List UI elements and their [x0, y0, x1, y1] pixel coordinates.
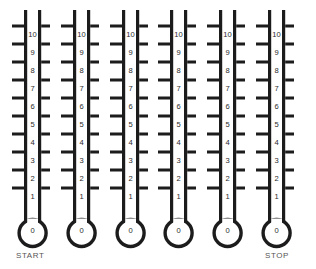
scale-value-6: 6 — [225, 102, 229, 111]
bulb-value: 0 — [30, 226, 34, 235]
tick-right-10 — [236, 25, 245, 28]
scale-value-10: 10 — [272, 30, 280, 39]
tick-right-3 — [236, 151, 245, 154]
scale-value-3: 3 — [225, 156, 229, 165]
tick-left-1 — [61, 187, 73, 190]
tick-left-6 — [158, 97, 170, 100]
scale-value-8: 8 — [176, 66, 180, 75]
tube-wall-right — [38, 10, 41, 223]
tick-right-8 — [285, 61, 294, 64]
scale-value-4: 4 — [176, 138, 180, 147]
scale-value-5: 5 — [176, 120, 180, 129]
tick-right-6 — [139, 97, 148, 100]
tick-right-8 — [41, 61, 50, 64]
scale-value-9: 9 — [176, 48, 180, 57]
tick-right-5 — [236, 115, 245, 118]
tick-left-10 — [110, 25, 122, 28]
scale-value-9: 9 — [79, 48, 83, 57]
tick-left-7 — [256, 79, 268, 82]
tick-left-3 — [110, 151, 122, 154]
scale-value-6: 6 — [176, 102, 180, 111]
scale-value-5: 5 — [30, 120, 34, 129]
tick-right-6 — [285, 97, 294, 100]
scale-value-2: 2 — [225, 174, 229, 183]
tick-left-2 — [61, 169, 73, 172]
bulb-neck — [125, 219, 136, 225]
tick-right-1 — [139, 187, 148, 190]
tick-right-3 — [285, 151, 294, 154]
tick-left-6 — [110, 97, 122, 100]
tick-left-7 — [12, 79, 24, 82]
bulb-neck — [27, 219, 38, 225]
tube-wall-right — [136, 10, 139, 223]
scale-value-1: 1 — [176, 192, 180, 201]
tick-left-6 — [61, 97, 73, 100]
tick-left-9 — [256, 43, 268, 46]
tick-right-6 — [187, 97, 196, 100]
tick-left-8 — [61, 61, 73, 64]
scale-value-9: 9 — [274, 48, 278, 57]
scale-value-8: 8 — [30, 66, 34, 75]
tube-wall-right — [282, 10, 285, 223]
scale-value-7: 7 — [128, 84, 132, 93]
bulb-neck — [271, 219, 282, 225]
scale-value-8: 8 — [128, 66, 132, 75]
tick-right-5 — [90, 115, 99, 118]
stop-label: STOP — [265, 251, 289, 260]
tick-left-5 — [110, 115, 122, 118]
tick-right-9 — [236, 43, 245, 46]
tick-right-5 — [41, 115, 50, 118]
scale-value-7: 7 — [30, 84, 34, 93]
tube-wall-right — [87, 10, 90, 223]
bulb-neck — [76, 219, 87, 225]
tick-left-2 — [12, 169, 24, 172]
tick-left-7 — [158, 79, 170, 82]
scale-value-4: 4 — [128, 138, 132, 147]
bulb-value: 0 — [128, 226, 132, 235]
scale-value-10: 10 — [223, 30, 231, 39]
tick-right-4 — [139, 133, 148, 136]
tick-right-1 — [187, 187, 196, 190]
bulb-neck — [173, 219, 184, 225]
scale-value-3: 3 — [176, 156, 180, 165]
tube-wall-right — [233, 10, 236, 223]
tick-left-10 — [207, 25, 219, 28]
tick-right-9 — [90, 43, 99, 46]
scale-value-10: 10 — [28, 30, 36, 39]
tick-left-2 — [256, 169, 268, 172]
tick-left-3 — [207, 151, 219, 154]
scale-value-5: 5 — [274, 120, 278, 129]
tick-left-3 — [12, 151, 24, 154]
tick-left-2 — [110, 169, 122, 172]
scale-value-4: 4 — [79, 138, 83, 147]
scale-value-5: 5 — [225, 120, 229, 129]
tick-right-7 — [187, 79, 196, 82]
tick-right-4 — [285, 133, 294, 136]
tick-right-6 — [90, 97, 99, 100]
tick-right-8 — [90, 61, 99, 64]
scale-value-2: 2 — [176, 174, 180, 183]
thermometer-5: 109876543210 — [206, 0, 258, 269]
bulb-neck — [222, 219, 233, 225]
tick-right-4 — [41, 133, 50, 136]
tick-right-8 — [187, 61, 196, 64]
tick-right-2 — [236, 169, 245, 172]
tick-left-4 — [207, 133, 219, 136]
tick-right-3 — [90, 151, 99, 154]
scale-value-9: 9 — [128, 48, 132, 57]
tick-right-1 — [236, 187, 245, 190]
bulb-value: 0 — [225, 226, 229, 235]
tick-right-3 — [41, 151, 50, 154]
scale-value-2: 2 — [274, 174, 278, 183]
scale-value-1: 1 — [225, 192, 229, 201]
tick-right-5 — [285, 115, 294, 118]
bulb-value: 0 — [176, 226, 180, 235]
scale-value-3: 3 — [79, 156, 83, 165]
scale-value-6: 6 — [274, 102, 278, 111]
tick-left-10 — [256, 25, 268, 28]
scale-value-4: 4 — [30, 138, 34, 147]
tick-right-10 — [285, 25, 294, 28]
tick-right-9 — [41, 43, 50, 46]
tick-left-2 — [158, 169, 170, 172]
tick-right-1 — [285, 187, 294, 190]
